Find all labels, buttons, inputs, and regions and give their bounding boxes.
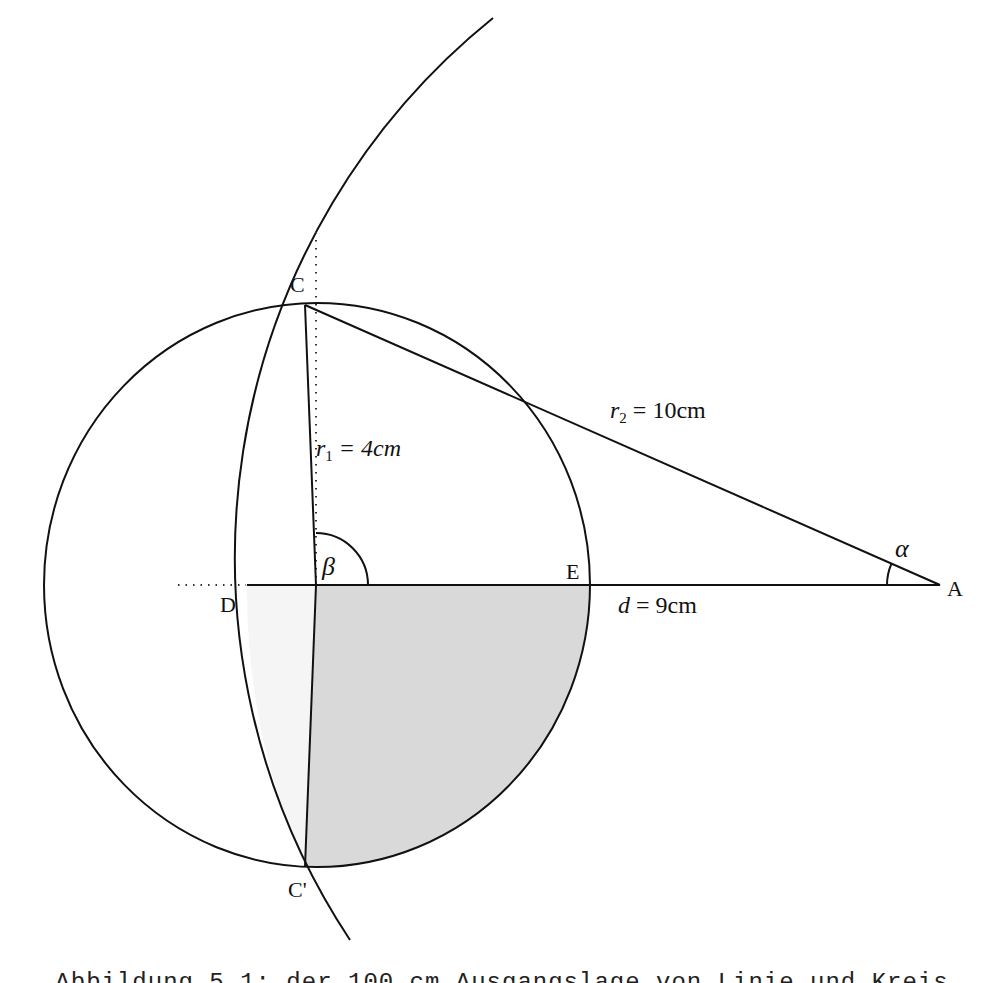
- shaded-lens-region: [247, 585, 316, 867]
- shaded-quadrant-region: [305, 585, 590, 867]
- point-label-d: D: [220, 592, 236, 617]
- label-r2: r2 = 10cm: [610, 397, 706, 426]
- point-label-a: A: [947, 576, 963, 601]
- figure-caption: Abbildung 5.1: der 100 cm Ausgangslage v…: [0, 965, 1004, 983]
- point-label-e: E: [566, 559, 579, 584]
- alpha-angle-arc: [887, 564, 892, 585]
- line-c-center: [305, 305, 316, 585]
- angle-label-beta: β: [321, 552, 335, 581]
- point-label-c: C: [290, 272, 305, 297]
- angle-label-alpha: α: [895, 534, 910, 563]
- point-label-c-prime: C': [288, 877, 307, 902]
- geometry-diagram: C C' D E A β α r1 = 4cm r2 = 10cm d = 9c…: [0, 0, 1004, 983]
- label-d: d = 9cm: [618, 592, 697, 618]
- label-r1: r1 = 4cm: [316, 435, 401, 464]
